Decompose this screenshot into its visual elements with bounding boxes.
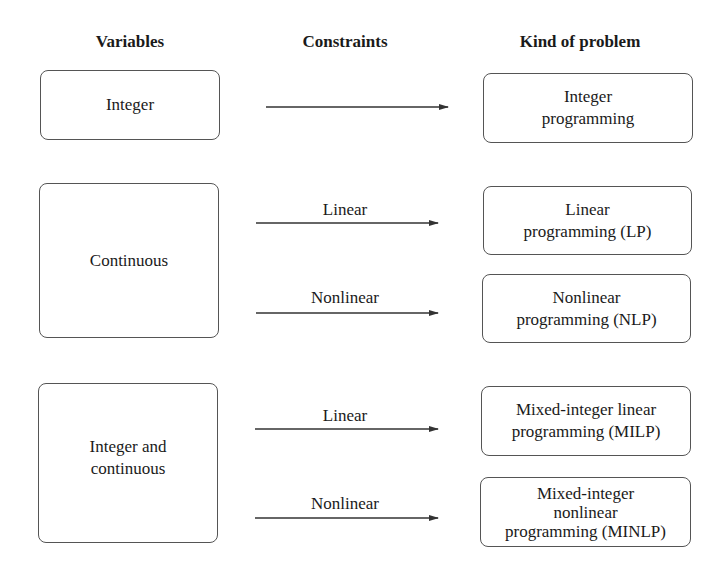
problem-label-line3: programming (MINLP): [505, 522, 666, 541]
problem-label-line2: programming (NLP): [516, 309, 656, 331]
problem-box-integer-programming: Integer programming: [483, 73, 693, 143]
problem-label-line2: nonlinear: [553, 503, 617, 522]
problem-label-line2: programming: [542, 108, 635, 130]
problem-label-line2: programming (LP): [524, 221, 652, 243]
problem-label-line1: Mixed-integer: [537, 484, 634, 503]
problem-label-line1: Mixed-integer linear: [516, 399, 656, 421]
problem-label-line1: Integer: [564, 86, 612, 108]
problem-box-minlp: Mixed-integer nonlinear programming (MIN…: [480, 477, 691, 547]
problem-box-milp: Mixed-integer linear programming (MILP): [481, 386, 691, 456]
problem-box-nlp: Nonlinear programming (NLP): [482, 274, 691, 343]
problem-box-lp: Linear programming (LP): [483, 186, 692, 255]
problem-label-line2: programming (MILP): [512, 421, 661, 443]
problem-label-line1: Linear: [565, 199, 609, 221]
problem-label-line1: Nonlinear: [553, 287, 621, 309]
